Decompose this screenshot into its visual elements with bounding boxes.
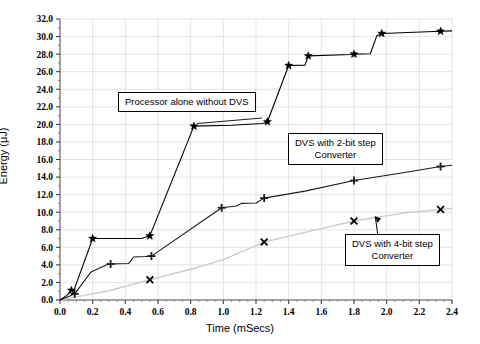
leader-line-processor	[197, 118, 262, 123]
x-tick-label: 0.2	[87, 307, 99, 317]
annotation-4bit-line1: DVS with 4-bit step	[352, 238, 433, 250]
x-tick-label: 1.4	[283, 307, 295, 317]
y-tick-label: 14.0	[36, 172, 53, 182]
annotation-processor-alone: Processor alone without DVS	[118, 92, 256, 112]
x-tick-label: 2.0	[381, 307, 393, 317]
x-tick-label: 0.6	[152, 307, 164, 317]
annotation-dvs-4bit: DVS with 4-bit step Converter	[345, 234, 440, 266]
annotation-2bit-line2: Converter	[295, 149, 376, 161]
x-tick-label: 0.4	[119, 307, 131, 317]
annotation-processor-text: Processor alone without DVS	[125, 96, 249, 107]
data-marker-star	[146, 232, 154, 240]
y-tick-label: 12.0	[36, 190, 53, 200]
x-axis-label: Time (mSecs)	[0, 322, 480, 334]
y-tick-label: 6.0	[41, 243, 53, 253]
y-tick-label: 16.0	[36, 155, 53, 165]
x-tick-label: 1.0	[217, 307, 229, 317]
y-tick-label: 8.0	[41, 225, 53, 235]
annotation-2bit-line1: DVS with 2-bit step	[295, 137, 376, 149]
x-tick-label: 0.8	[185, 307, 197, 317]
x-tick-label: 0.0	[54, 307, 66, 317]
y-tick-label: 26.0	[36, 67, 53, 77]
y-tick-label: 28.0	[36, 50, 53, 60]
data-marker-star	[437, 27, 445, 35]
x-tick-label: 2.2	[413, 307, 425, 317]
energy-vs-time-plot: 0.02.04.06.08.010.012.014.016.018.020.02…	[0, 0, 480, 344]
y-axis-ticks: 0.02.04.06.08.010.012.014.016.018.020.02…	[36, 14, 60, 305]
y-tick-label: 32.0	[36, 14, 53, 24]
data-marker-star	[190, 122, 198, 130]
data-marker-star	[263, 118, 271, 126]
chart-figure: 0.02.04.06.08.010.012.014.016.018.020.02…	[0, 0, 480, 344]
y-tick-label: 18.0	[36, 137, 53, 147]
y-tick-label: 4.0	[41, 260, 53, 270]
y-tick-label: 0.0	[41, 295, 53, 305]
y-tick-label: 10.0	[36, 208, 53, 218]
data-marker-star	[304, 52, 312, 60]
y-tick-label: 2.0	[41, 278, 53, 288]
y-tick-label: 24.0	[36, 85, 53, 95]
x-tick-label: 1.2	[250, 307, 262, 317]
data-marker-star	[378, 29, 386, 37]
annotation-dvs-2bit: DVS with 2-bit step Converter	[288, 133, 383, 165]
x-tick-label: 2.4	[446, 307, 458, 317]
y-tick-label: 20.0	[36, 120, 53, 130]
y-tick-label: 22.0	[36, 102, 53, 112]
y-tick-label: 30.0	[36, 32, 53, 42]
x-axis-ticks: 0.00.20.40.60.81.01.21.41.61.82.02.22.4	[54, 300, 458, 317]
x-tick-label: 1.6	[315, 307, 327, 317]
y-axis-label: Energy (μJ)	[0, 127, 9, 184]
annotation-4bit-line2: Converter	[352, 250, 433, 262]
x-tick-label: 1.8	[348, 307, 360, 317]
